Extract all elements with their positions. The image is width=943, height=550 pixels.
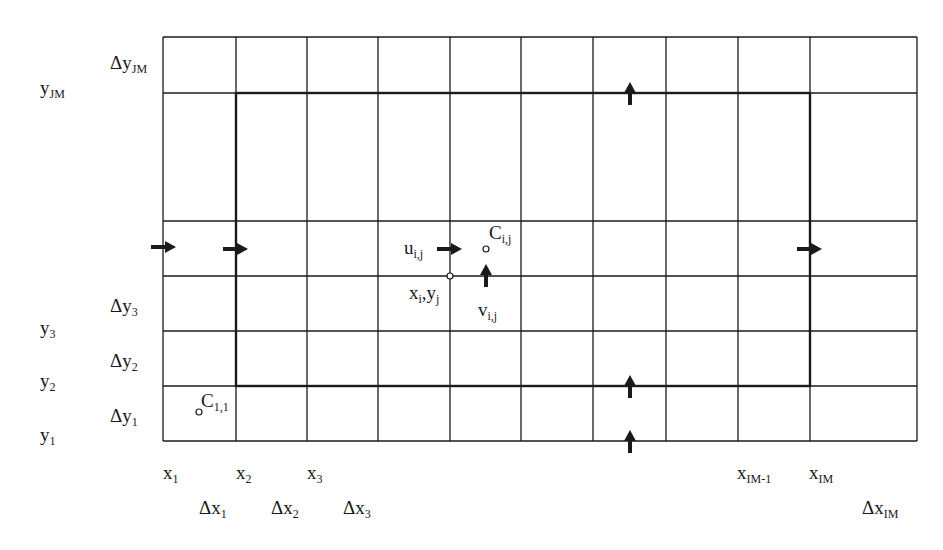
delta-y-label: Δy3: [110, 296, 138, 318]
y-coordinate-label: yJM: [40, 78, 65, 100]
delta-x-label: Δx3: [343, 498, 371, 520]
x-coordinate-label: xIM: [809, 463, 833, 485]
x-coordinate-label: x3: [307, 463, 323, 485]
x-coordinate-label: x1: [163, 463, 179, 485]
u-ij-label: ui,j: [404, 238, 423, 260]
center-cij-point: [483, 246, 489, 252]
xy-ij-label: xi,yj: [409, 283, 439, 305]
delta-y-label: Δy2: [110, 351, 138, 373]
grid-lines: [163, 37, 917, 441]
x-coordinate-label: x2: [236, 463, 252, 485]
node-xi-yj-point: [447, 273, 453, 279]
delta-x-label: Δx2: [271, 498, 299, 520]
y-coordinate-label: y2: [40, 371, 56, 393]
c-ij-label: Ci,j: [489, 223, 511, 245]
staggered-grid-diagram: [0, 0, 943, 550]
delta-y-label: Δy1: [110, 406, 138, 428]
inner-computational-boundary: [236, 93, 810, 386]
c-11-label: C1,1: [201, 391, 229, 413]
delta-x-label: Δx1: [199, 498, 227, 520]
velocity-arrows: [151, 82, 822, 453]
y-coordinate-label: y1: [40, 425, 56, 447]
delta-y-label: ΔyJM: [110, 53, 147, 75]
v-ij-label: vi,j: [478, 300, 497, 322]
x-coordinate-label: xIM-1: [737, 463, 771, 485]
delta-x-label: ΔxIM: [862, 498, 898, 520]
y-coordinate-label: y3: [40, 318, 56, 340]
